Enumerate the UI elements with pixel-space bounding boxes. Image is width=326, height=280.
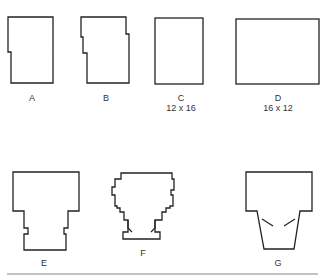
shape-d [236,19,319,84]
label-b: B [76,93,136,103]
label-g: G [248,258,308,268]
label-d: D [248,93,308,103]
shape-a [8,17,53,83]
shape-g [246,172,312,249]
label-a: A [2,93,62,103]
shape-c [155,18,203,84]
label-f: F [113,248,173,258]
label-e: E [14,258,74,268]
diagram-canvas [0,0,326,280]
shape-f [112,173,174,239]
label-d-dims: 16 x 12 [248,103,308,113]
shape-e [13,172,79,250]
label-c: C [151,93,211,103]
shape-b [81,17,129,83]
label-c-dims: 12 x 16 [151,103,211,113]
